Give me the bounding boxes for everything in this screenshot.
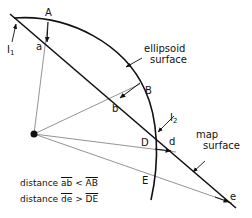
- label-ellipsoid-line2: surface: [150, 54, 187, 65]
- label-d: d: [169, 136, 175, 147]
- projection-rays: [34, 22, 232, 203]
- label-ellipsoid-line1: ellipsoid: [144, 43, 185, 54]
- label-a: a: [36, 41, 42, 52]
- pointer-map: [193, 161, 205, 172]
- ray-a: [34, 22, 48, 134]
- pointer-I1: [12, 24, 16, 42]
- projection-diagram: I1 A a B b I2 D d E e ellipsoid surface …: [0, 0, 252, 218]
- caption-left-segment: de: [61, 194, 72, 204]
- label-map-line2: surface: [203, 140, 240, 151]
- label-I2: I2: [170, 112, 177, 125]
- caption-right-segment: DE: [86, 194, 99, 204]
- arrow-A-to-a: [47, 22, 48, 42]
- caption-de-vs-DE: distance de > DE: [20, 194, 98, 204]
- label-D: D: [141, 137, 149, 148]
- label-A: A: [45, 7, 52, 18]
- caption-ab-vs-AB: distance ab < AB: [20, 178, 98, 188]
- label-E: E: [142, 175, 148, 186]
- label-map-line1: map: [196, 129, 218, 140]
- label-e: e: [230, 191, 236, 202]
- caption-operator: >: [75, 194, 83, 204]
- arrow-B-to-b: [120, 83, 140, 98]
- caption-prefix: distance: [20, 178, 58, 188]
- projection-center-point: [31, 131, 38, 138]
- caption-left-segment: ab: [61, 178, 72, 188]
- ray-d: [34, 134, 176, 152]
- pointer-ellipsoid: [126, 58, 142, 67]
- label-I1: I1: [7, 44, 14, 57]
- ray-b: [34, 84, 140, 134]
- caption-right-segment: AB: [86, 178, 98, 188]
- label-B: B: [145, 85, 152, 96]
- caption-operator: <: [75, 178, 83, 188]
- label-b: b: [112, 103, 118, 114]
- caption-prefix: distance: [20, 194, 58, 204]
